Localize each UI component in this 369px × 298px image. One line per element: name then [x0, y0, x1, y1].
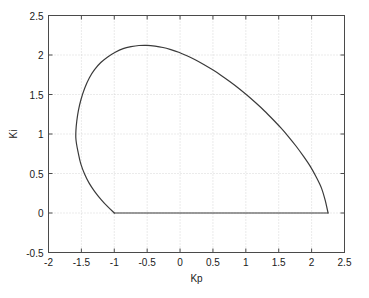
plot-canvas [0, 0, 369, 298]
y-tick-label: 2.5 [30, 10, 44, 21]
y-axis-label: Ki [8, 130, 19, 139]
y-tick-label: -0.5 [26, 247, 43, 258]
x-tick-label: -1.5 [73, 257, 90, 268]
y-tick-label: 1.5 [30, 89, 44, 100]
x-tick-label: 2 [309, 257, 315, 268]
y-tick-label: 0.5 [30, 168, 44, 179]
y-tick-label: 1 [38, 129, 44, 140]
y-tick-label: 2 [38, 50, 44, 61]
chart-figure: -2-1.5-1-0.500.511.522.5 -0.500.511.522.… [0, 0, 369, 298]
x-tick-label: 0 [177, 257, 183, 268]
x-axis-label: Kp [190, 273, 202, 284]
x-tick-label: 0.5 [206, 257, 220, 268]
gridlines [49, 16, 345, 253]
x-tick-label: -2 [44, 257, 53, 268]
x-tick-label: -0.5 [139, 257, 156, 268]
x-tick-label: 1 [243, 257, 249, 268]
x-tick-label: 1.5 [272, 257, 286, 268]
data-curve [76, 45, 328, 213]
x-tick-label: 2.5 [338, 257, 352, 268]
y-tick-label: 0 [38, 208, 44, 219]
x-tick-label: -1 [110, 257, 119, 268]
